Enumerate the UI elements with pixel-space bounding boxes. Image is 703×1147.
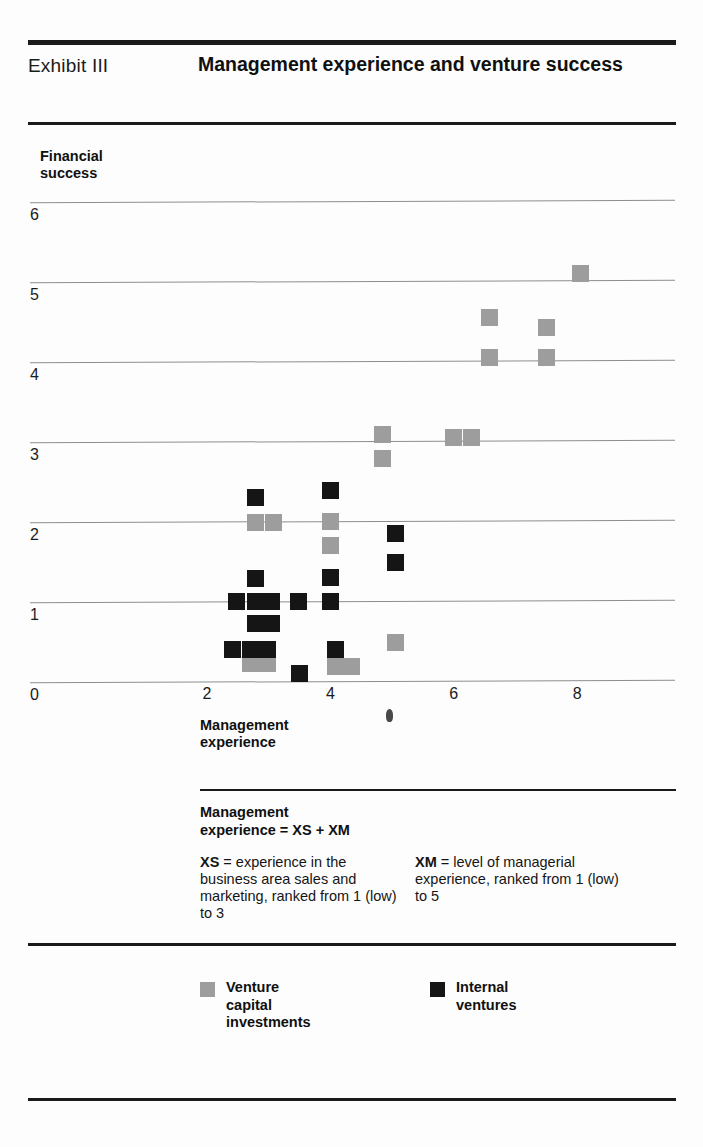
y-tick-label: 6 bbox=[30, 207, 39, 223]
data-point bbox=[247, 615, 264, 632]
data-point bbox=[265, 514, 282, 531]
note-xm-key: XM bbox=[415, 854, 437, 870]
y-tick-label: 0 bbox=[30, 687, 39, 703]
data-point bbox=[572, 265, 589, 282]
data-point bbox=[387, 554, 404, 571]
bottom-rule bbox=[28, 1098, 676, 1101]
data-point bbox=[538, 349, 555, 366]
gridline bbox=[30, 360, 675, 363]
data-point bbox=[291, 665, 308, 682]
note-xm: XM = level of managerial experience, ran… bbox=[415, 854, 630, 905]
y-tick-label: 1 bbox=[30, 607, 39, 623]
note-xs-key: XS bbox=[200, 854, 219, 870]
gridline bbox=[30, 200, 675, 203]
data-point bbox=[387, 525, 404, 542]
data-point bbox=[374, 450, 391, 467]
y-axis-title: Financial success bbox=[40, 148, 103, 182]
ink-smudge bbox=[386, 709, 393, 722]
legend-label: Internal ventures bbox=[456, 979, 516, 1014]
data-point bbox=[259, 641, 276, 658]
y-tick-label: 2 bbox=[30, 527, 39, 543]
gridline bbox=[30, 520, 675, 523]
data-point bbox=[387, 634, 404, 651]
data-point bbox=[247, 570, 264, 587]
data-point bbox=[322, 482, 339, 499]
gridline bbox=[30, 680, 675, 683]
data-point bbox=[481, 309, 498, 326]
data-point bbox=[290, 593, 307, 610]
data-point bbox=[263, 615, 280, 632]
note-xm-text: = level of managerial experience, ranked… bbox=[415, 854, 619, 904]
data-point bbox=[247, 593, 264, 610]
data-point bbox=[322, 569, 339, 586]
scatter-chart: Financial success 0123456 2468 Managemen… bbox=[0, 0, 703, 760]
y-tick-label: 4 bbox=[30, 367, 39, 383]
notes-top-rule bbox=[200, 789, 676, 791]
legend-swatch-icon bbox=[430, 982, 445, 997]
y-tick-label: 3 bbox=[30, 447, 39, 463]
x-tick-label: 2 bbox=[203, 686, 212, 702]
legend-swatch-icon bbox=[200, 982, 215, 997]
data-point bbox=[327, 658, 344, 675]
x-tick-label: 4 bbox=[326, 686, 335, 702]
data-point bbox=[263, 593, 280, 610]
gridline bbox=[30, 600, 675, 603]
data-point bbox=[247, 489, 264, 506]
note-xs-text: = experience in the business area sales … bbox=[200, 854, 397, 921]
data-point bbox=[538, 319, 555, 336]
data-point bbox=[322, 593, 339, 610]
x-tick-label: 8 bbox=[573, 686, 582, 702]
data-point bbox=[322, 537, 339, 554]
exhibit-page: Exhibit III Management experience and ve… bbox=[0, 0, 703, 1147]
legend-rule bbox=[28, 943, 676, 946]
data-point bbox=[343, 658, 360, 675]
x-tick-label: 6 bbox=[449, 686, 458, 702]
x-axis-title: Management experience bbox=[200, 717, 289, 751]
data-point bbox=[374, 426, 391, 443]
data-point bbox=[322, 513, 339, 530]
data-point bbox=[242, 641, 259, 658]
note-xs: XS = experience in the business area sal… bbox=[200, 854, 400, 922]
notes-heading: Management experience = XS + XM bbox=[200, 804, 350, 839]
data-point bbox=[481, 349, 498, 366]
data-point bbox=[247, 514, 264, 531]
data-point bbox=[445, 429, 462, 446]
data-point bbox=[463, 429, 480, 446]
data-point bbox=[228, 593, 245, 610]
data-point bbox=[327, 641, 344, 658]
data-point bbox=[224, 641, 241, 658]
legend-label: Venture capital investments bbox=[226, 979, 311, 1032]
y-tick-label: 5 bbox=[30, 287, 39, 303]
gridline bbox=[30, 440, 675, 443]
